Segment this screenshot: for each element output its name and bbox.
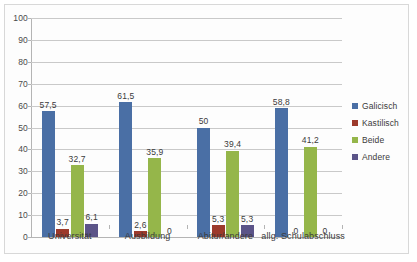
bar-value-label: 35,9: [146, 147, 163, 157]
bar-value-label: 32,7: [68, 154, 85, 164]
bar-value-label: 5,3: [241, 214, 253, 224]
bar-value-label: 50: [199, 116, 209, 126]
bar-value-label: 58,8: [273, 97, 290, 107]
y-axis-tick-label: 40: [4, 144, 28, 154]
bar[interactable]: [119, 102, 132, 237]
legend-swatch-icon: [352, 103, 358, 109]
y-axis-tick-label: 80: [4, 57, 28, 67]
plot-area: 57,53,732,76,161,52,635,90505,339,45,358…: [31, 18, 342, 237]
legend-label: Andere: [362, 152, 390, 162]
legend-swatch-icon: [352, 120, 358, 126]
bar[interactable]: [304, 147, 317, 237]
y-axis-tick-label: 20: [4, 188, 28, 198]
legend-item-kastilisch[interactable]: Kastilisch: [352, 114, 410, 131]
y-axis-tick-labels: 0102030405060708090100: [5, 18, 28, 238]
x-axis-tick-mark: [187, 225, 188, 229]
legend-swatch-icon: [352, 154, 358, 160]
x-axis-category-label: allg. Schulabschluss: [261, 231, 345, 241]
y-axis-tick-label: 70: [4, 79, 28, 89]
legend-item-andere[interactable]: Andere: [352, 148, 410, 165]
bar[interactable]: [197, 128, 210, 238]
bar[interactable]: [42, 111, 55, 237]
bar-value-label: 41,2: [302, 135, 319, 145]
bar-value-label: 57,5: [39, 100, 56, 110]
bar-value-label: 3,7: [56, 217, 68, 227]
x-axis-category-label: Abitur/andere: [198, 231, 253, 241]
bar[interactable]: [148, 158, 161, 237]
y-axis-tick-label: 60: [4, 101, 28, 111]
bar[interactable]: [275, 108, 288, 237]
bar-group: 61,52,635,90: [109, 18, 187, 237]
legend-label: Galicisch: [362, 101, 397, 111]
bar[interactable]: [71, 165, 84, 237]
y-axis-tick-label: 0: [4, 232, 28, 242]
x-axis-category-label: Universität: [48, 231, 92, 241]
x-axis-tick-mark: [31, 225, 32, 229]
legend-swatch-icon: [352, 137, 358, 143]
bar-value-label: 61,5: [117, 91, 134, 101]
bar-group: 57,53,732,76,1: [31, 18, 109, 237]
legend-item-galicisch[interactable]: Galicisch: [352, 97, 410, 114]
y-axis-tick-label: 50: [4, 123, 28, 133]
x-axis-category-label: Ausbildung: [125, 231, 171, 241]
x-axis-tick-mark: [109, 225, 110, 229]
y-axis-tick-label: 100: [4, 13, 28, 23]
bar-group: 58,8041,20: [264, 18, 342, 237]
bar-value-label: 6,1: [85, 212, 97, 222]
bar-group: 505,339,45,3: [187, 18, 265, 237]
bar-value-label: 5,3: [212, 214, 224, 224]
bar[interactable]: [226, 151, 239, 237]
chart-legend: GalicischKastilischBeideAndere: [352, 97, 410, 165]
y-axis-tick-label: 90: [4, 35, 28, 45]
y-axis-tick-label: 30: [4, 166, 28, 176]
x-axis-tick-mark: [342, 225, 343, 229]
legend-label: Beide: [362, 135, 384, 145]
bar-value-label: 39,4: [224, 139, 241, 149]
y-axis-tick-label: 10: [4, 210, 28, 220]
legend-item-beide[interactable]: Beide: [352, 131, 410, 148]
bar-value-label: 2,6: [134, 220, 146, 230]
x-axis-tick-mark: [264, 225, 265, 229]
chart-container: 0102030405060708090100 57,53,732,76,161,…: [4, 4, 409, 254]
legend-label: Kastilisch: [362, 118, 399, 128]
